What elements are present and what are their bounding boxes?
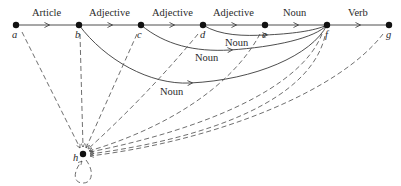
node-b bbox=[76, 22, 82, 28]
node-label-h: h bbox=[73, 152, 78, 163]
dash-b-h bbox=[80, 34, 83, 147]
node-label-d: d bbox=[200, 29, 206, 40]
node-h bbox=[80, 151, 86, 157]
label-article: Article bbox=[32, 7, 61, 18]
label-verb: Verb bbox=[348, 7, 368, 18]
node-f bbox=[324, 22, 330, 28]
node-label-c: c bbox=[137, 29, 142, 40]
node-label-e: e bbox=[262, 29, 267, 40]
self-loop-h bbox=[75, 160, 91, 183]
label-adjective-1: Adjective bbox=[89, 7, 130, 18]
node-d bbox=[200, 22, 206, 28]
node-label-b: b bbox=[75, 29, 80, 40]
label-adjective-2: Adjective bbox=[152, 7, 193, 18]
dash-g-h bbox=[90, 34, 383, 156]
edge-labels: Article Adjective Adjective Adjective No… bbox=[32, 7, 368, 97]
dash-c-h bbox=[86, 34, 137, 148]
node-c bbox=[138, 22, 144, 28]
node-a bbox=[13, 22, 19, 28]
nodes bbox=[13, 22, 392, 157]
dash-a-h bbox=[22, 32, 80, 148]
node-label-g: g bbox=[386, 29, 391, 40]
label-noun-main: Noun bbox=[283, 7, 307, 18]
label-adjective-3: Adjective bbox=[213, 7, 254, 18]
label-noun-arc-c: Noun bbox=[195, 52, 219, 63]
label-noun-arc-b: Noun bbox=[160, 86, 184, 97]
label-noun-arc-d: Noun bbox=[225, 37, 249, 48]
node-e bbox=[262, 22, 268, 28]
node-label-f: f bbox=[325, 29, 330, 40]
state-transition-diagram: a b c d e f g h Article Adjective Adject… bbox=[0, 0, 401, 186]
node-g bbox=[386, 22, 392, 28]
node-label-a: a bbox=[12, 29, 17, 40]
